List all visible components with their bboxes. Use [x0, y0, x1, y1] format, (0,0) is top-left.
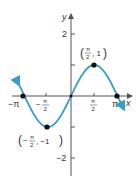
y-tick-label-neg2: −2: [56, 153, 66, 163]
x-tick-label-pi: π: [112, 99, 118, 109]
point-pi: [114, 93, 119, 98]
svg-text:2: 2: [44, 106, 48, 112]
svg-text:): ): [103, 46, 107, 60]
svg-text:−: −: [36, 100, 41, 109]
x-tick-label-pi-half: π 2: [90, 98, 97, 112]
y-axis-label: y: [61, 12, 67, 22]
x-axis-label: x: [125, 98, 131, 108]
annotation-max: ( π 2 , 1 ): [80, 46, 107, 60]
svg-text:2: 2: [92, 106, 96, 112]
point-neg-pi: [20, 93, 25, 98]
point-origin: [70, 95, 73, 98]
svg-text:π: π: [30, 134, 34, 140]
svg-text:(: (: [80, 46, 84, 60]
x-tick-label-neg-pi: −π: [8, 99, 19, 109]
svg-text:π: π: [91, 98, 95, 104]
point-max: [91, 62, 96, 67]
annotation-min: ( − π 2 , −1 ): [18, 133, 63, 148]
svg-text:(: (: [18, 133, 22, 147]
svg-text:, 1: , 1: [92, 49, 101, 58]
svg-text:π: π: [43, 98, 47, 104]
svg-text:2: 2: [30, 142, 34, 148]
svg-text:, −1: , −1: [36, 137, 50, 146]
svg-text:): ): [59, 133, 63, 147]
x-tick-label-neg-pi-half: − π 2: [36, 98, 49, 112]
svg-text:−: −: [23, 136, 28, 145]
y-tick-label-2: 2: [62, 29, 67, 39]
point-min: [44, 124, 49, 129]
sine-graph: x y 2 −2 −π π − π 2 π 2 ( π 2 , 1 ): [0, 0, 139, 179]
svg-text:π: π: [86, 46, 90, 52]
svg-text:2: 2: [86, 54, 90, 60]
